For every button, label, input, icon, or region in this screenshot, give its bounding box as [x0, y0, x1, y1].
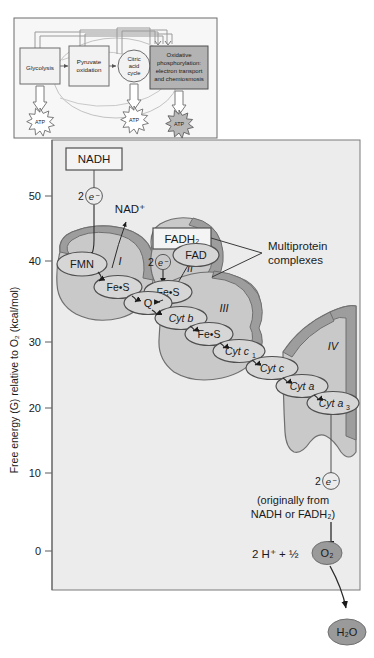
carrier-cyt-c1-subscript: 1 [252, 352, 256, 359]
originally-from-line1: (originally from [257, 494, 329, 506]
originally-from-line2: NADH or FADH₂) [251, 508, 335, 520]
carrier-fes-iii-label: Fe•S [198, 328, 221, 340]
final-reaction-label: 2 H⁺ + ½ [252, 548, 299, 560]
y-tick-label-10: 10 [29, 467, 41, 479]
inset-label-citric-line1: Citric [127, 56, 140, 62]
carrier-cyt-b-label: Cyt b [169, 312, 194, 324]
nadh-label: NADH [78, 153, 111, 165]
inset-label-oxphos-line2: phosphorylation: [157, 60, 201, 66]
inset-label-pyruvate-line2: oxidation [77, 66, 102, 73]
oxygen-molecule-label: O₂ [321, 547, 334, 559]
inset-label-pyruvate-line1: Pyruvate [77, 58, 102, 65]
complex-iv-numeral: IV [328, 340, 340, 352]
y-tick-label-0: 0 [35, 545, 41, 557]
electron-count-nadh: 2 [78, 190, 84, 202]
electron-count-fadh2: 2 [148, 256, 154, 268]
electron-transport-chain-figure: Glycolysis Pyruvate oxidation Citric aci… [0, 0, 374, 658]
complex-iii-numeral: III [219, 302, 228, 314]
main-plot: 50 40 30 20 10 0 Free energy (G) relativ… [8, 140, 366, 645]
carrier-fad-label: FAD [185, 249, 206, 261]
electron-symbol-fadh2: e⁻ [158, 258, 169, 268]
inset-label-oxphos-line3: electron transport [156, 68, 203, 74]
electron-symbol-nadh: e⁻ [89, 191, 100, 202]
inset-label-oxphos-line1: Oxidative [166, 52, 192, 58]
nad-plus-label: NAD⁺ [115, 203, 145, 215]
carrier-cyt-c1-label: Cyt c [225, 345, 250, 357]
multiprotein-label-line1: Multiprotein [268, 240, 327, 252]
y-axis-title: Free energy (G) relative to O₂ (kcal/mol… [8, 287, 20, 474]
inset-label-glycolysis: Glycolysis [26, 64, 54, 71]
carrier-cyt-a3-label: Cyt a [319, 397, 344, 409]
y-tick-label-40: 40 [29, 255, 41, 267]
inset-label-oxphos-line4: and chemiosmosis [154, 76, 204, 82]
inset-atp-label-3: ATP [174, 121, 184, 127]
inset-label-citric-line3: cycle [127, 70, 140, 76]
carrier-cyt-c-label: Cyt c [260, 362, 285, 374]
multiprotein-label-line2: complexes [268, 254, 323, 266]
electron-symbol-final: e⁻ [326, 476, 337, 487]
inset-label-citric-line2: acid [129, 63, 140, 69]
carrier-cyt-a3-subscript: 3 [346, 404, 350, 411]
carrier-fes-i-label: Fe•S [107, 281, 130, 293]
carrier-q-label: Q [144, 297, 153, 309]
carrier-fad: FAD [173, 244, 219, 267]
water-molecule-label: H₂O [337, 626, 358, 638]
y-tick-label-50: 50 [29, 190, 41, 202]
inset-atp-label-2: ATP [129, 117, 139, 123]
carrier-fmn-label: FMN [70, 258, 94, 270]
complex-i-numeral: I [118, 255, 121, 267]
carrier-fmn: FMN [57, 252, 107, 276]
y-tick-label-30: 30 [29, 336, 41, 348]
y-tick-label-20: 20 [29, 402, 41, 414]
electron-count-final: 2 [315, 475, 321, 487]
carrier-cyt-a-label: Cyt a [290, 380, 315, 392]
figure-root: Glycolysis Pyruvate oxidation Citric aci… [0, 0, 374, 658]
cellular-respiration-inset: Glycolysis Pyruvate oxidation Citric aci… [14, 18, 217, 138]
inset-atp-label-1: ATP [35, 119, 45, 125]
